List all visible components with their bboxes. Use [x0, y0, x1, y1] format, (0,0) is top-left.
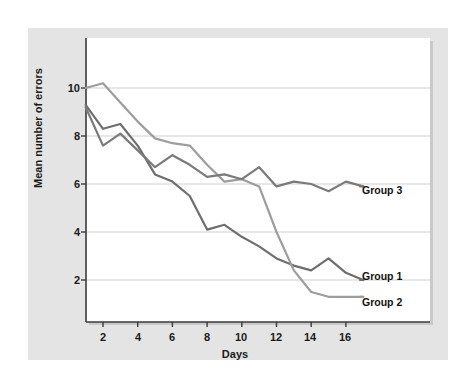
series-paths [86, 83, 364, 297]
y-axis-title: Mean number of errors [32, 43, 44, 213]
series-label-group-1: Group 1 [362, 270, 402, 282]
x-tick-label-10: 10 [230, 331, 252, 343]
y-tick-label-6: 6 [54, 178, 80, 190]
series-line-group-1 [86, 105, 364, 280]
x-tick-label-2: 2 [92, 331, 114, 343]
x-tick-label-12: 12 [265, 331, 287, 343]
x-tick-label-4: 4 [127, 331, 149, 343]
y-tick-label-2: 2 [54, 274, 80, 286]
x-tick-label-14: 14 [299, 331, 321, 343]
line-chart [0, 0, 476, 388]
y-tick-label-4: 4 [54, 226, 80, 238]
x-tick-label-8: 8 [196, 331, 218, 343]
x-tick-label-16: 16 [334, 331, 356, 343]
series-label-group-3: Group 3 [362, 184, 402, 196]
series-label-group-2: Group 2 [362, 296, 402, 308]
x-axis-title: Days [160, 348, 310, 360]
y-tick-label-10: 10 [54, 82, 80, 94]
figure-root: 10 8 6 4 2 2 4 6 8 10 12 14 16 Mean numb… [0, 0, 476, 388]
y-tick-label-8: 8 [54, 130, 80, 142]
series-line-group-2 [86, 83, 364, 297]
x-tick-label-6: 6 [161, 331, 183, 343]
series-line-group-3 [86, 107, 364, 191]
